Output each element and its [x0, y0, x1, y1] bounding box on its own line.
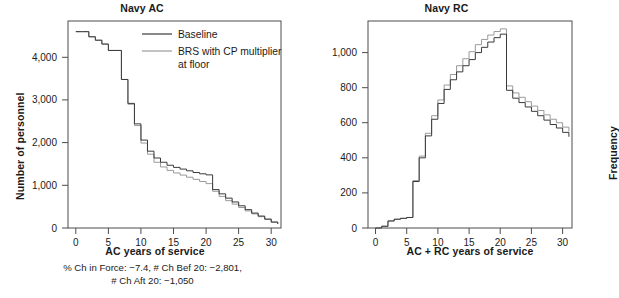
plot-area-navy-ac: 0 1,000 2,000 3,000 4,000 0 5 10 15 20: [0, 0, 300, 250]
y-tick-label: 4,000: [32, 52, 57, 63]
series-group-navy-ac: [76, 32, 278, 224]
y-tick-label: 800: [340, 82, 357, 93]
series-line-brs: [76, 32, 278, 224]
series-group-navy-rc: [375, 29, 568, 228]
y-tick-label: 0: [51, 223, 57, 234]
chart-panel-navy-ac: Navy AC 0 1,000 2,000 3,000 4,000: [0, 0, 300, 298]
y-tick-label: 200: [340, 187, 357, 198]
y-tick-label: 0: [351, 223, 357, 234]
y-tick-label: 2,000: [32, 137, 57, 148]
y-axis-ticks-navy-rc: 0 200 400 600 800 1,000: [332, 47, 368, 233]
x-axis-title-navy-rc: AC + RC years of service: [350, 245, 590, 257]
y-axis-title-navy-ac: Number of personnel: [14, 93, 26, 201]
chart-panel-navy-rc: Navy RC 0 200 400 600 800 1,000: [300, 0, 581, 298]
caption-line-2: # Ch Aft 20: −1,050: [10, 275, 295, 288]
y-tick-label: 400: [340, 152, 357, 163]
series-line-baseline: [76, 32, 278, 224]
y-tick-label: 1,000: [32, 180, 57, 191]
y-tick-label: 600: [340, 117, 357, 128]
y-tick-label: 1,000: [332, 47, 357, 58]
y-axis-ticks-navy-ac: 0 1,000 2,000 3,000 4,000: [32, 52, 68, 234]
series-line-brs: [375, 34, 568, 228]
legend-label-baseline: Baseline: [178, 29, 218, 40]
legend-label-brs-line2: at floor: [178, 59, 210, 70]
figure-caption: % Ch in Force: −7.4, # Ch Bef 20: −2,801…: [10, 262, 295, 287]
legend-navy-ac: Baseline BRS with CP multiplier at floor: [142, 29, 282, 71]
caption-line-1: % Ch in Force: −7.4, # Ch Bef 20: −2,801…: [10, 262, 295, 275]
y-tick-label: 3,000: [32, 94, 57, 105]
y-axis-title-navy-rc: Frequency: [607, 126, 619, 180]
legend-label-brs: BRS with CP multiplier: [178, 46, 282, 57]
series-line-baseline: [375, 29, 568, 228]
plot-area-navy-rc: 0 200 400 600 800 1,000 0 5 10 15: [300, 0, 581, 250]
x-axis-title-navy-ac: AC years of service: [30, 245, 280, 257]
